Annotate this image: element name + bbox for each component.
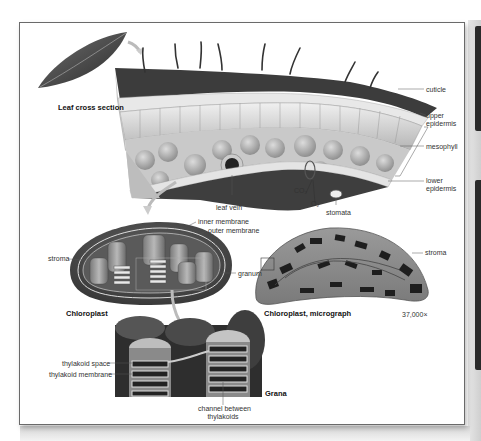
label-co2: CO₂: [294, 187, 307, 195]
label-channel-line2: thylakoids: [198, 413, 248, 421]
label-upper-epidermis-line2: epidermis: [426, 120, 456, 128]
label-inner-membrane: inner membrane: [198, 218, 249, 226]
label-mesophyll: mesophyll: [426, 143, 458, 151]
label-outer-membrane: outer membrane: [208, 227, 259, 235]
label-micrograph-stroma: stroma: [425, 249, 446, 257]
label-lower-epidermis-line1: lower: [426, 177, 443, 185]
label-leaf-vein: leaf vein: [216, 204, 242, 212]
label-magnification: 37,000×: [402, 311, 428, 319]
label-channel-line1: channel between: [198, 405, 248, 413]
chloroplast-micrograph-image: [256, 228, 429, 304]
label-thylakoid-space: thylakoid space: [62, 360, 110, 368]
label-upper-epidermis-line1: upper: [426, 112, 444, 120]
label-stomata: stomata: [326, 209, 351, 217]
label-chloroplast: Chloroplast: [66, 310, 108, 318]
leaf-cross-section-illustration: [115, 42, 437, 210]
label-cuticle: cuticle: [426, 86, 446, 94]
label-leaf-cross-section: Leaf cross section: [58, 104, 124, 112]
label-chloroplast-micrograph: Chloroplast, micrograph: [264, 310, 351, 318]
label-stroma: stroma: [48, 255, 69, 263]
label-grana: Grana: [265, 390, 287, 398]
label-lower-epidermis-line2: epidermis: [426, 185, 456, 193]
label-granum: granum: [238, 270, 262, 278]
grana-illustration: [115, 310, 265, 397]
label-o2: O₂: [311, 200, 319, 208]
label-thylakoid-membrane: thylakoid membrane: [49, 371, 112, 379]
